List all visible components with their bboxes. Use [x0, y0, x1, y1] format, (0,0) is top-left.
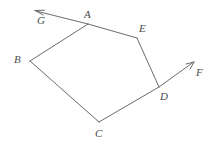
label-D: D	[160, 91, 168, 102]
edge-C-D	[99, 87, 159, 122]
label-F: F	[196, 67, 203, 78]
label-G: G	[37, 15, 45, 26]
label-E: E	[139, 23, 146, 34]
label-C: C	[95, 128, 102, 139]
geometry-figure: A B C D E F G	[0, 0, 217, 145]
edge-D-E	[137, 38, 159, 87]
label-A: A	[84, 9, 91, 20]
label-B: B	[14, 54, 21, 65]
edge-A-B	[30, 24, 88, 61]
edge-E-A	[88, 24, 137, 38]
edge-B-C	[30, 61, 99, 122]
figure-canvas	[0, 0, 217, 145]
ray-D-F	[159, 63, 193, 88]
